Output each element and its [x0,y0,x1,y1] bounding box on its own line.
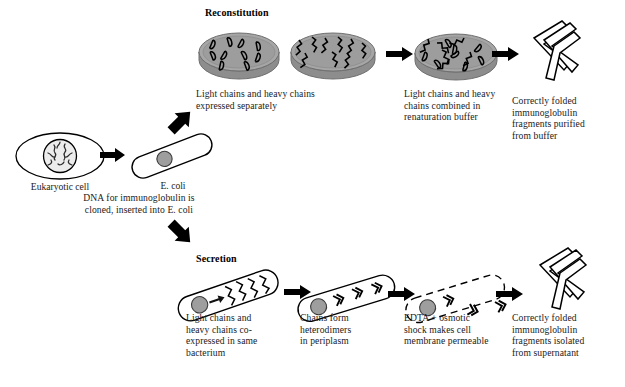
ecoli-cell-label: E. coli [138,180,208,192]
reconstitution-heading: Reconstitution [205,7,269,18]
petri-dish-icon [412,26,500,84]
reconstitution-caption-2: Light chains and heavy chains combined i… [404,88,514,123]
arrow-recon-1 [386,46,414,62]
fab-fragment-icon [530,243,596,321]
fab-fragment-top [524,16,590,92]
petri-dish-icon [196,26,282,82]
eukaryotic-cell: Eukaryotic cell [14,131,106,181]
fab-fragment-icon [524,16,590,92]
reconstitution-caption-3: Correctly folded immunoglobulin fragment… [512,95,618,141]
fab-fragment-bottom [530,243,596,321]
arrow-right-icon [100,147,126,163]
arrow-right-icon [492,46,520,62]
arrow-secretion-3 [496,286,524,302]
secretion-caption-3: EDTA + osmotic shock makes cell membrane… [404,312,510,347]
petri-dish-light-chains [196,26,282,82]
petri-dish-combined [412,26,500,84]
branch-arrow-down [164,216,198,250]
branch-arrow-up [164,104,198,138]
secretion-caption-2: Chains form heterodimers in periplasm [300,312,400,347]
figure-canvas: Eukaryotic cell E. coli DNA for immunogl… [0,0,625,387]
secretion-caption-4: Correctly folded immunoglobulin fragment… [512,312,620,358]
petri-dish-icon [288,26,378,82]
cloning-process-note: DNA for immunoglobulin is cloned, insert… [34,192,244,215]
arrow-euk-to-ecoli [100,147,126,163]
reconstitution-caption-1: Light chains and heavy chains expressed … [196,88,396,111]
petri-dish-heavy-chains [288,26,378,82]
arrow-right-icon [386,46,414,62]
arrow-up-right-icon [164,104,198,138]
eukaryotic-cell-icon [14,131,106,181]
eukaryotic-cell-label: Eukaryotic cell [14,181,106,193]
secretion-caption-1: Light chains and heavy chains co- expres… [186,312,288,358]
arrow-down-right-icon [164,216,198,250]
arrow-right-icon [496,286,524,302]
arrow-recon-2 [492,46,520,62]
